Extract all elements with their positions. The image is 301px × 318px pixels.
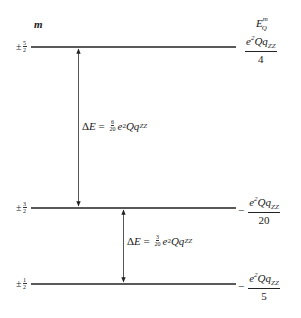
energy-label-1-2: − e2QqZZ 5: [238, 271, 280, 302]
delta-e-label-1: ΔE = 620 e2QqZZ: [82, 119, 147, 132]
m-column-header: m: [34, 18, 43, 30]
m-label-3-2: ±32: [16, 201, 27, 214]
delta-e-label-2: ΔE = 320 e2QqZZ: [127, 234, 192, 247]
energy-column-header: EmQ: [256, 16, 267, 32]
energy-label-5-2: e2QqZZ 4: [245, 34, 277, 65]
m-label-1-2: ±12: [16, 277, 27, 290]
energy-label-3-2: − e2QqZZ 20: [238, 195, 280, 226]
m-label-5-2: ±52: [16, 40, 27, 53]
